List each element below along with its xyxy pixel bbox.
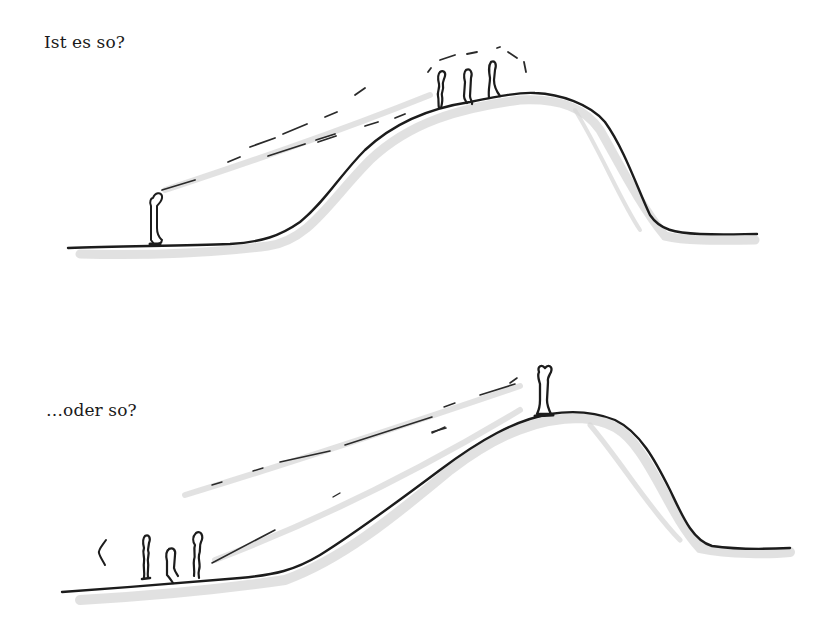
person-group-bottom-1 (142, 535, 150, 579)
hill-shading-bottom (80, 418, 790, 600)
person-group-top-3 (489, 61, 500, 98)
hill-shading-top (80, 100, 755, 255)
panel-bottom (62, 366, 790, 600)
person-group-bottom-3 (193, 532, 202, 578)
bracket-mark (99, 540, 106, 565)
sketch-canvas (0, 0, 827, 635)
person-group-top-2 (464, 69, 472, 104)
person-group-top-1 (438, 71, 445, 108)
panel-top (68, 47, 757, 255)
person-group-bottom-2 (166, 548, 178, 583)
sight-lines-bottom (185, 378, 520, 563)
person-lone-foot-top (150, 193, 162, 244)
person-lone-summit-bottom (535, 366, 553, 416)
hill-outline-bottom (62, 412, 790, 592)
sight-lines-top (162, 47, 526, 190)
